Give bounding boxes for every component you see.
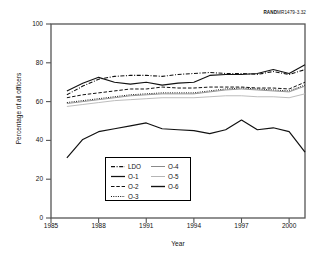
legend-swatch-o-2 (111, 183, 125, 190)
x-tick-label-1988: 1988 (79, 222, 119, 229)
y-tick-label-80: 80 (17, 59, 43, 66)
y-tick-label-20: 20 (17, 175, 43, 182)
legend-label-o-6: O-6 (168, 183, 179, 190)
series-line-o-6 (67, 120, 305, 158)
legend-swatch-o-1 (111, 173, 125, 180)
chart-figure: RANDMR1479-3.32 Percentage of all office… (0, 0, 320, 260)
legend-label-o-3: O-3 (128, 193, 139, 200)
legend-label-o-2: O-2 (128, 183, 139, 190)
x-tick-label-1985: 1985 (31, 222, 71, 229)
legend-column-left: LDOO-1O-2O-3 (111, 161, 141, 201)
legend-column-right: O-4O-5O-6 (151, 161, 179, 191)
plot-area (0, 0, 320, 260)
legend-swatch-o-6 (151, 183, 165, 190)
y-tick-label-60: 60 (17, 98, 43, 105)
x-tick-label-1997: 1997 (222, 222, 262, 229)
legend-label-o-5: O-5 (168, 173, 179, 180)
legend-label-o-4: O-4 (168, 163, 179, 170)
series-line-o-4 (67, 86, 305, 103)
x-tick-label-1991: 1991 (126, 222, 166, 229)
legend-label-o-1: O-1 (128, 173, 139, 180)
legend-item-o-2[interactable]: O-2 (111, 181, 141, 191)
legend-swatch-ldo (111, 163, 125, 170)
legend-swatch-o-5 (151, 173, 165, 180)
legend-swatch-o-4 (151, 163, 165, 170)
x-tick-label-2000: 2000 (269, 222, 309, 229)
legend-item-o-5[interactable]: O-5 (151, 171, 179, 181)
legend-item-o-3[interactable]: O-3 (111, 191, 141, 201)
series-line-o-5 (67, 94, 305, 107)
y-tick-label-40: 40 (17, 136, 43, 143)
legend-item-o-6[interactable]: O-6 (151, 181, 179, 191)
legend-item-o-4[interactable]: O-4 (151, 161, 179, 171)
y-tick-label-0: 0 (17, 214, 43, 221)
legend-swatch-o-3 (111, 193, 125, 200)
legend-item-o-1[interactable]: O-1 (111, 171, 141, 181)
x-tick-label-1994: 1994 (174, 222, 214, 229)
series-line-o-1 (67, 65, 305, 91)
chart-legend: LDOO-1O-2O-3 O-4O-5O-6 (105, 157, 191, 201)
legend-label-ldo: LDO (128, 163, 141, 170)
y-tick-label-100: 100 (17, 20, 43, 27)
legend-item-ldo[interactable]: LDO (111, 161, 141, 171)
